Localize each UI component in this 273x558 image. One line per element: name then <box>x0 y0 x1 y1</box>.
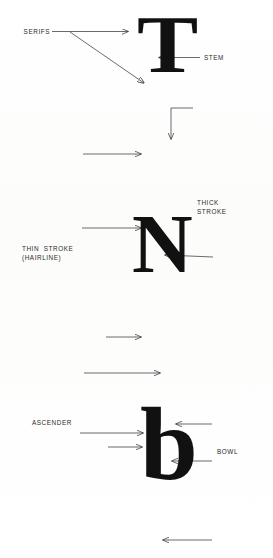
panel-letter-b: b ASCENDER BOWL <box>0 195 273 295</box>
panel-letter-g: g TOP LOOP JOINING ELEMENT HOOK BOTTOM L… <box>0 395 273 495</box>
glyph-t: T <box>137 4 198 86</box>
label-serifs: SERIFS <box>22 28 50 37</box>
panel-letter-q: q SWELL DESCENDER <box>0 295 273 395</box>
panel-letter-t: T SERIFS STEM <box>0 0 273 95</box>
panel-letter-f: f CROSS- STROKE <box>0 495 273 558</box>
diagram-page: T SERIFS STEM N THICK STROKE THIN STROKE… <box>0 0 273 558</box>
label-stem: STEM <box>204 54 224 63</box>
panel-letter-n: N THICK STROKE THIN STROKE (HAIRLINE) <box>0 95 273 195</box>
